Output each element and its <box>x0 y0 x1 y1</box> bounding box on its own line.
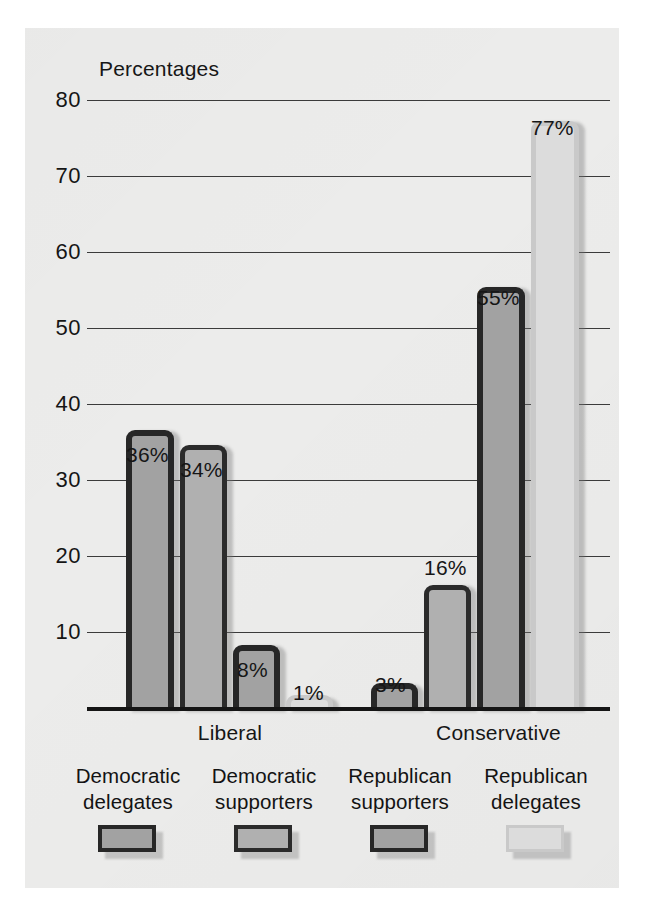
x-axis-baseline <box>87 707 610 711</box>
legend-label-line1: Democratic <box>60 763 196 789</box>
ytick-70: 70 <box>25 176 81 177</box>
bar-value-liberal-republican-supporters: 8% <box>237 658 268 682</box>
bar-liberal-democratic-delegates[interactable] <box>126 430 174 707</box>
legend-swatch-democratic-supporters <box>234 825 292 852</box>
bar-conservative-republican-delegates[interactable] <box>531 121 579 707</box>
bar-value-conservative-republican-supporters: 55% <box>477 286 520 310</box>
bar-conservative-republican-supporters[interactable] <box>477 287 525 707</box>
bar-value-liberal-democratic-delegates: 36% <box>126 443 169 467</box>
legend: Democratic delegates Democratic supporte… <box>60 763 605 873</box>
legend-item-republican-supporters[interactable]: Republican supporters <box>332 763 468 855</box>
legend-label-line2: delegates <box>60 789 196 815</box>
figure-root: Percentages 80 70 60 50 40 <box>0 0 645 916</box>
legend-swatch-wrap <box>506 825 566 855</box>
axis-title: Percentages <box>99 57 219 81</box>
ytick-50: 50 <box>25 328 81 329</box>
bar-value-liberal-democratic-supporters: 34% <box>180 458 223 482</box>
bar-value-conservative-republican-delegates: 77% <box>531 116 574 140</box>
ytick-30: 30 <box>25 480 81 481</box>
legend-swatch-republican-supporters <box>370 825 428 852</box>
ytick-label-80: 80 <box>35 87 81 113</box>
plot-area: Percentages 80 70 60 50 40 <box>25 28 619 888</box>
chart-panel: Percentages 80 70 60 50 40 <box>25 28 619 888</box>
legend-swatch-republican-delegates <box>506 825 564 852</box>
ytick-label-70: 70 <box>35 163 81 189</box>
ytick-40: 40 <box>25 404 81 405</box>
bar-liberal-democratic-supporters[interactable] <box>180 445 227 707</box>
legend-swatch-wrap <box>98 825 158 855</box>
bar-value-liberal-republican-delegates: 1% <box>293 681 324 705</box>
legend-label-line1: Republican <box>468 763 604 789</box>
bar-value-conservative-democratic-supporters: 16% <box>424 556 467 580</box>
ytick-60: 60 <box>25 252 81 253</box>
legend-label-line2: supporters <box>196 789 332 815</box>
legend-swatch-democratic-delegates <box>98 825 156 852</box>
legend-item-democratic-delegates[interactable]: Democratic delegates <box>60 763 196 855</box>
ytick-label-10: 10 <box>35 619 81 645</box>
ytick-label-30: 30 <box>35 467 81 493</box>
legend-swatch-wrap <box>370 825 430 855</box>
ytick-label-50: 50 <box>35 315 81 341</box>
ytick-label-20: 20 <box>35 543 81 569</box>
legend-label-line2: supporters <box>332 789 468 815</box>
bar-conservative-democratic-supporters[interactable] <box>424 585 471 707</box>
bar-value-conservative-democratic-delegates: 3% <box>375 673 406 697</box>
legend-item-democratic-supporters[interactable]: Democratic supporters <box>196 763 332 855</box>
ytick-10: 10 <box>25 632 81 633</box>
legend-swatch-wrap <box>234 825 294 855</box>
legend-label-line2: delegates <box>468 789 604 815</box>
legend-label-line1: Republican <box>332 763 468 789</box>
ytick-80: 80 <box>25 100 81 101</box>
category-label-liberal: Liberal <box>165 721 295 745</box>
ytick-20: 20 <box>25 556 81 557</box>
legend-label-line1: Democratic <box>196 763 332 789</box>
legend-item-republican-delegates[interactable]: Republican delegates <box>468 763 604 855</box>
ytick-label-40: 40 <box>35 391 81 417</box>
category-label-conservative: Conservative <box>411 721 586 745</box>
gridline-80 <box>87 100 610 101</box>
ytick-label-60: 60 <box>35 239 81 265</box>
